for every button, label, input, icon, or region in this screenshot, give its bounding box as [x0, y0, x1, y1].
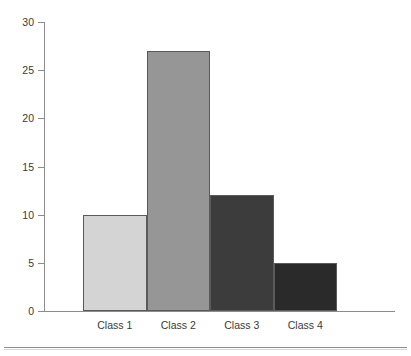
footer-divider — [4, 347, 407, 348]
y-axis-tick-label: 5 — [0, 258, 34, 268]
bar-chart-figure: 051015202530 Class 1Class 2Class 3Class … — [0, 0, 411, 356]
x-axis-line — [44, 311, 395, 312]
y-axis-tick-label: 25 — [0, 65, 34, 75]
bar-1[interactable] — [83, 215, 147, 311]
y-axis-tick-label: 0 — [0, 306, 34, 316]
bar-series — [44, 22, 395, 311]
x-axis-label-3: Class 3 — [210, 319, 274, 331]
x-axis-label-4: Class 4 — [274, 319, 338, 331]
y-axis-tick — [38, 311, 44, 312]
y-axis-tick-label: 30 — [0, 17, 34, 27]
y-axis-tick-label: 20 — [0, 113, 34, 123]
footer-divider-shadow — [4, 349, 407, 350]
plot-area — [44, 22, 395, 311]
bar-3[interactable] — [210, 195, 274, 311]
x-axis-label-2: Class 2 — [147, 319, 211, 331]
bar-4[interactable] — [274, 263, 338, 311]
y-axis-tick-label: 15 — [0, 162, 34, 172]
y-axis-tick-label: 10 — [0, 210, 34, 220]
x-axis-label-1: Class 1 — [83, 319, 147, 331]
bar-2[interactable] — [147, 51, 211, 311]
